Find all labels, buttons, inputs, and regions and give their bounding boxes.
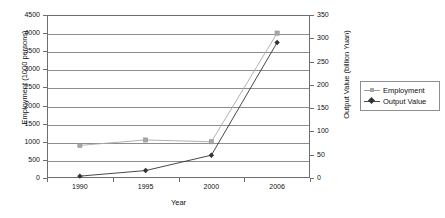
right-tick-label: 250	[317, 58, 341, 66]
legend-marker-square-icon	[363, 86, 381, 95]
data-point-marker[interactable]	[144, 138, 148, 142]
right-tick-label: 200	[317, 81, 341, 89]
data-point-marker[interactable]	[209, 140, 213, 144]
x-axis-title: Year	[47, 198, 310, 207]
x-tick-label: 2006	[257, 183, 297, 191]
right-tick-label: 350	[317, 11, 341, 19]
left-tick-label: 0	[10, 174, 40, 182]
left-tick-label: 500	[10, 156, 40, 164]
x-tick-mark	[244, 178, 245, 182]
data-point-marker[interactable]	[274, 40, 279, 45]
right-tick-mark	[310, 15, 314, 16]
series-line-employment	[80, 33, 277, 145]
right-tick-mark	[310, 38, 314, 39]
data-point-marker[interactable]	[209, 152, 214, 157]
right-tick-label: 300	[317, 34, 341, 42]
left-tick-label: 3000	[10, 65, 40, 73]
left-tick-label: 2000	[10, 102, 40, 110]
legend-label-output-value: Output Value	[381, 97, 426, 106]
right-axis-title: Output Value (billion Yuan)	[342, 2, 351, 147]
right-tick-mark	[310, 85, 314, 86]
legend-item-employment[interactable]: Employment	[363, 85, 437, 96]
right-tick-mark	[310, 108, 314, 109]
right-tick-label: 100	[317, 127, 341, 135]
right-tick-mark	[310, 155, 314, 156]
right-tick-mark	[310, 131, 314, 132]
data-point-marker[interactable]	[143, 168, 148, 173]
legend-marker-diamond-icon	[363, 97, 381, 106]
left-tick-label: 2500	[10, 83, 40, 91]
legend-item-output-value[interactable]: Output Value	[363, 96, 437, 107]
x-tick-mark	[310, 178, 311, 182]
right-tick-label: 150	[317, 104, 341, 112]
legend-label-employment: Employment	[381, 86, 425, 95]
x-tick-label: 1990	[60, 183, 100, 191]
right-tick-label: 0	[317, 174, 341, 182]
chart-legend: Employment Output Value	[360, 81, 440, 111]
x-tick-label: 2000	[191, 183, 231, 191]
chart-container: Employment (1000 persons) Output Value (…	[0, 0, 445, 218]
data-point-marker[interactable]	[78, 143, 82, 147]
left-tick-label: 3500	[10, 47, 40, 55]
x-tick-mark	[47, 178, 48, 182]
left-tick-label: 1500	[10, 120, 40, 128]
left-tick-label: 1000	[10, 138, 40, 146]
series-layer	[47, 15, 310, 178]
data-point-marker[interactable]	[275, 31, 279, 35]
left-tick-label: 4000	[10, 29, 40, 37]
x-tick-label: 1995	[126, 183, 166, 191]
data-point-marker[interactable]	[77, 173, 82, 178]
right-tick-mark	[310, 62, 314, 63]
right-tick-label: 50	[317, 151, 341, 159]
x-tick-mark	[179, 178, 180, 182]
left-tick-label: 4500	[10, 11, 40, 19]
series-line-output-value	[80, 42, 277, 176]
x-tick-mark	[113, 178, 114, 182]
